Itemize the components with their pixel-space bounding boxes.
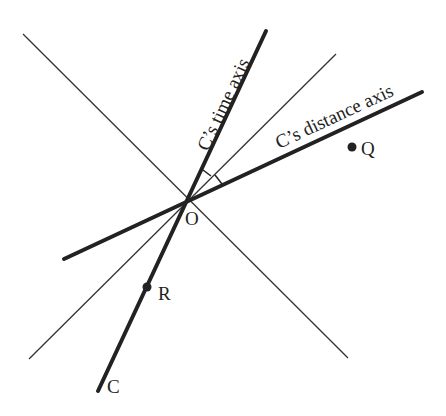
spacetime-diagram: C’s time axis C’s distance axis O Q R C [0, 0, 446, 416]
point-r-dot [143, 283, 152, 292]
light-line-1 [23, 34, 348, 358]
worldline-c-label: C [107, 376, 120, 397]
origin-label: O [185, 208, 199, 229]
time-axis-label: C’s time axis [193, 55, 254, 154]
point-q-dot [348, 143, 357, 152]
point-q-label: Q [361, 138, 375, 159]
point-r-label: R [158, 283, 171, 304]
angle-mark-1 [203, 170, 211, 176]
distance-axis-label: C’s distance axis [272, 80, 397, 153]
distance-axis-line [64, 92, 422, 259]
angle-mark-2 [215, 175, 222, 184]
